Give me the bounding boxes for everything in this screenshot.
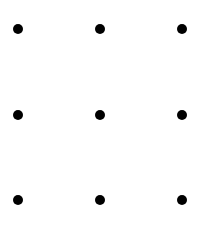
dot-r2-c2 <box>177 195 187 205</box>
dot-r1-c1 <box>95 110 105 120</box>
dot-r2-c0 <box>13 195 23 205</box>
dot-r1-c0 <box>13 110 23 120</box>
dot-r0-c0 <box>13 24 23 34</box>
dot-r1-c2 <box>177 110 187 120</box>
dot-r0-c1 <box>95 24 105 34</box>
dot-r2-c1 <box>95 195 105 205</box>
dot-r0-c2 <box>177 24 187 34</box>
nine-dot-grid <box>0 0 201 230</box>
